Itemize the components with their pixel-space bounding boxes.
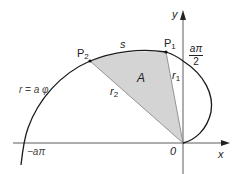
x-axis-arrow-icon bbox=[221, 140, 230, 146]
point-p2-label: P2 bbox=[77, 48, 89, 61]
y-intercept-denominator: 2 bbox=[193, 57, 199, 67]
x-intercept-label: −aπ bbox=[27, 147, 45, 157]
radius-r1-label: r1 bbox=[172, 70, 180, 83]
area-label: A bbox=[137, 72, 145, 84]
point-p1-label: P1 bbox=[164, 38, 176, 51]
y-axis-arrow-icon bbox=[180, 10, 186, 20]
x-axis-label: x bbox=[218, 149, 224, 160]
origin-label: 0 bbox=[170, 146, 176, 157]
y-intercept-label: aπ 2 bbox=[189, 44, 203, 67]
sector-area-a bbox=[90, 51, 183, 143]
arc-length-label: s bbox=[120, 39, 126, 50]
curve-equation-label: r = a φ bbox=[19, 85, 49, 95]
y-intercept-numerator: aπ bbox=[190, 44, 202, 54]
y-axis-label: y bbox=[172, 9, 178, 20]
radius-r2-label: r2 bbox=[110, 86, 118, 99]
